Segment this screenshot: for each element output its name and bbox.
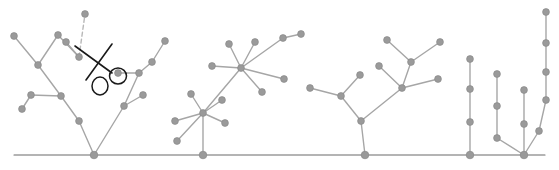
tree-node[interactable] xyxy=(280,35,287,42)
tree-node[interactable] xyxy=(11,33,18,40)
tree-root-node[interactable] xyxy=(199,151,207,159)
tree-node[interactable] xyxy=(188,91,195,98)
tree-node[interactable] xyxy=(521,87,528,94)
scissors-blade-b xyxy=(86,44,112,80)
tree-edge xyxy=(14,36,38,65)
tree-edge xyxy=(241,42,255,68)
tree-edge xyxy=(31,95,61,96)
tree-edge xyxy=(79,121,94,155)
tree-node[interactable] xyxy=(63,39,70,46)
tree-node[interactable] xyxy=(358,118,365,125)
tree-node[interactable] xyxy=(162,38,169,45)
tree-edge xyxy=(203,68,241,113)
tree-node[interactable] xyxy=(338,93,345,100)
tree-edge xyxy=(94,106,124,155)
tree-node[interactable] xyxy=(35,62,42,69)
tree-edge xyxy=(61,96,79,121)
tree-edge xyxy=(241,38,283,68)
tree-root-node[interactable] xyxy=(90,151,98,159)
tree-node[interactable] xyxy=(357,72,364,79)
tree-5-three-branch xyxy=(494,9,550,159)
tree-node[interactable] xyxy=(536,128,543,135)
tree-node[interactable] xyxy=(226,41,233,48)
tree-edge xyxy=(387,40,411,62)
tree-node[interactable] xyxy=(115,70,122,77)
detached-node[interactable] xyxy=(82,11,89,18)
tree-node[interactable] xyxy=(259,89,266,96)
tree-node[interactable] xyxy=(172,118,179,125)
tree-node[interactable] xyxy=(494,71,501,78)
tree-node[interactable] xyxy=(543,40,550,47)
tree-edge xyxy=(361,121,365,155)
tree-node[interactable] xyxy=(55,32,62,39)
tree-node[interactable] xyxy=(521,121,528,128)
tree-node[interactable] xyxy=(174,138,181,145)
tree-edge xyxy=(38,65,61,96)
tree-node[interactable] xyxy=(238,65,245,72)
tree-node[interactable] xyxy=(494,135,501,142)
tree-root-node[interactable] xyxy=(361,151,369,159)
tree-edge xyxy=(539,100,546,131)
tree-node[interactable] xyxy=(437,39,444,46)
tree-node[interactable] xyxy=(543,9,550,16)
tree-edge xyxy=(411,42,440,62)
tree-node[interactable] xyxy=(281,76,288,83)
tree-node[interactable] xyxy=(307,85,314,92)
tree-node[interactable] xyxy=(76,54,83,61)
tree-edge xyxy=(402,62,411,88)
tree-node[interactable] xyxy=(467,86,474,93)
tree-edge xyxy=(379,66,402,88)
tree-edge xyxy=(497,138,524,155)
tree-node[interactable] xyxy=(494,103,501,110)
tree-node[interactable] xyxy=(76,118,83,125)
tree-node[interactable] xyxy=(399,85,406,92)
tree-node[interactable] xyxy=(384,37,391,44)
tree-node[interactable] xyxy=(467,56,474,63)
tree-root-node[interactable] xyxy=(520,151,528,159)
tree-node[interactable] xyxy=(376,63,383,70)
tree-node[interactable] xyxy=(19,106,26,113)
tree-node[interactable] xyxy=(543,69,550,76)
tree-edge xyxy=(524,131,539,155)
tree-edge xyxy=(402,79,438,88)
tree-node[interactable] xyxy=(219,97,226,104)
tree-node[interactable] xyxy=(136,70,143,77)
tree-edge xyxy=(341,75,360,96)
tree-node[interactable] xyxy=(149,59,156,66)
tree-node[interactable] xyxy=(140,92,147,99)
tree-node[interactable] xyxy=(298,31,305,38)
tree-node[interactable] xyxy=(121,103,128,110)
tree-edge xyxy=(229,44,241,68)
tree-2-star xyxy=(172,31,305,159)
tree-1-branching xyxy=(11,11,169,159)
tree-edge xyxy=(341,96,361,121)
tree-node[interactable] xyxy=(209,63,216,70)
tree-edge xyxy=(310,88,341,96)
tree-edge xyxy=(212,66,241,68)
tree-node[interactable] xyxy=(222,120,229,127)
tree-edge xyxy=(361,88,402,121)
tree-3-binary xyxy=(307,37,444,159)
tree-cut-illustration xyxy=(0,0,559,170)
tree-node[interactable] xyxy=(435,76,442,83)
tree-node[interactable] xyxy=(58,93,65,100)
tree-node[interactable] xyxy=(200,110,207,117)
tree-node[interactable] xyxy=(543,97,550,104)
scissors-handle-left xyxy=(92,77,108,95)
tree-edge xyxy=(241,68,284,79)
tree-root-node[interactable] xyxy=(466,151,474,159)
tree-edge xyxy=(38,35,58,65)
tree-4-path xyxy=(466,56,474,159)
tree-node[interactable] xyxy=(252,39,259,46)
tree-node[interactable] xyxy=(28,92,35,99)
tree-node[interactable] xyxy=(467,119,474,126)
tree-node[interactable] xyxy=(408,59,415,66)
graph-canvas xyxy=(0,0,559,170)
tree-edge xyxy=(241,68,262,92)
